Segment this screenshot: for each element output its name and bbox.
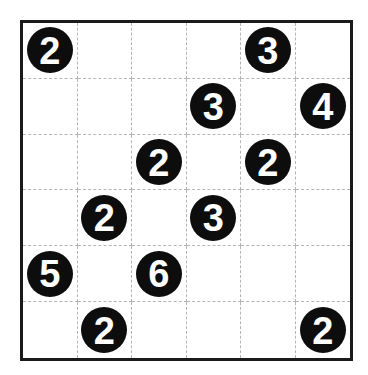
clue-circle: 3 [245, 27, 291, 73]
grid-cell-r0-c1[interactable] [78, 23, 133, 79]
clue-circle: 6 [136, 251, 182, 297]
grid-cell-r5-c2[interactable] [132, 302, 187, 358]
grid-cell-r5-c5[interactable]: 2 [296, 302, 351, 358]
grid-cell-r0-c4[interactable]: 3 [241, 23, 296, 79]
grid-cell-r3-c1[interactable]: 2 [78, 190, 133, 246]
clue-circle: 2 [300, 307, 346, 353]
grid-cell-r2-c5[interactable] [296, 135, 351, 191]
grid-cell-r5-c0[interactable] [23, 302, 78, 358]
puzzle-grid: 233422235622 [23, 23, 350, 358]
puzzle-board: 233422235622 [20, 20, 353, 361]
clue-circle: 2 [27, 27, 73, 73]
grid-cell-r5-c3[interactable] [187, 302, 242, 358]
grid-cell-r5-c1[interactable]: 2 [78, 302, 133, 358]
clue-circle: 5 [27, 251, 73, 297]
grid-cell-r2-c4[interactable]: 2 [241, 135, 296, 191]
grid-cell-r0-c3[interactable] [187, 23, 242, 79]
clue-circle: 2 [81, 307, 127, 353]
grid-cell-r4-c0[interactable]: 5 [23, 246, 78, 302]
grid-cell-r1-c4[interactable] [241, 79, 296, 135]
grid-cell-r2-c3[interactable] [187, 135, 242, 191]
clue-circle: 2 [81, 195, 127, 241]
grid-cell-r3-c4[interactable] [241, 190, 296, 246]
clue-circle: 4 [300, 83, 346, 129]
grid-cell-r1-c5[interactable]: 4 [296, 79, 351, 135]
clue-circle: 2 [136, 139, 182, 185]
grid-cell-r3-c3[interactable]: 3 [187, 190, 242, 246]
grid-cell-r5-c4[interactable] [241, 302, 296, 358]
clue-circle: 3 [190, 195, 236, 241]
grid-cell-r3-c2[interactable] [132, 190, 187, 246]
grid-cell-r2-c2[interactable]: 2 [132, 135, 187, 191]
grid-cell-r0-c0[interactable]: 2 [23, 23, 78, 79]
grid-cell-r0-c5[interactable] [296, 23, 351, 79]
grid-cell-r4-c4[interactable] [241, 246, 296, 302]
grid-cell-r0-c2[interactable] [132, 23, 187, 79]
grid-cell-r1-c0[interactable] [23, 79, 78, 135]
grid-cell-r4-c3[interactable] [187, 246, 242, 302]
grid-cell-r1-c2[interactable] [132, 79, 187, 135]
clue-circle: 3 [190, 83, 236, 129]
clue-circle: 2 [245, 139, 291, 185]
grid-cell-r3-c0[interactable] [23, 190, 78, 246]
grid-cell-r1-c3[interactable]: 3 [187, 79, 242, 135]
grid-cell-r2-c1[interactable] [78, 135, 133, 191]
grid-cell-r4-c2[interactable]: 6 [132, 246, 187, 302]
grid-cell-r2-c0[interactable] [23, 135, 78, 191]
grid-cell-r4-c5[interactable] [296, 246, 351, 302]
grid-cell-r1-c1[interactable] [78, 79, 133, 135]
grid-cell-r3-c5[interactable] [296, 190, 351, 246]
grid-cell-r4-c1[interactable] [78, 246, 133, 302]
